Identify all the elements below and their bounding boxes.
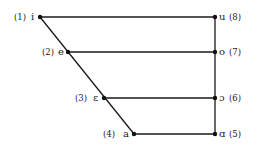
dot-open-o (213, 96, 217, 100)
label-num-7: (7) (229, 47, 241, 57)
front-labels: (1) i (2) e (3) ɛ (4) a (14, 11, 129, 139)
label-vowel-e: e (58, 46, 64, 57)
label-vowel-i: i (31, 11, 34, 22)
label-vowel-open-o: ɔ (219, 92, 225, 103)
back-labels: u (8) o (7) ɔ (6) ɑ (5) (219, 11, 241, 139)
label-vowel-epsilon: ɛ (93, 92, 98, 103)
label-num-3: (3) (75, 93, 87, 103)
dot-u (213, 15, 217, 19)
label-num-4: (4) (103, 129, 115, 139)
label-vowel-u: u (219, 11, 226, 22)
label-vowel-a: a (123, 128, 129, 139)
label-vowel-o: o (219, 46, 225, 57)
dot-e (66, 50, 70, 54)
vowel-chart: (1) i (2) e (3) ɛ (4) a u (8) o (7) ɔ (6… (0, 0, 258, 152)
label-num-6: (6) (229, 93, 241, 103)
vertex-dots (38, 15, 217, 136)
dot-a (132, 132, 136, 136)
front-diagonal-line (40, 17, 134, 134)
label-num-5: (5) (229, 129, 241, 139)
label-num-8: (8) (229, 12, 241, 22)
chart-lines (40, 17, 215, 134)
label-vowel-script-a: ɑ (219, 128, 226, 139)
dot-i (38, 15, 42, 19)
label-num-2: (2) (42, 47, 54, 57)
dot-o (213, 50, 217, 54)
dot-script-a (213, 132, 217, 136)
dot-epsilon (102, 96, 106, 100)
label-num-1: (1) (14, 12, 26, 22)
